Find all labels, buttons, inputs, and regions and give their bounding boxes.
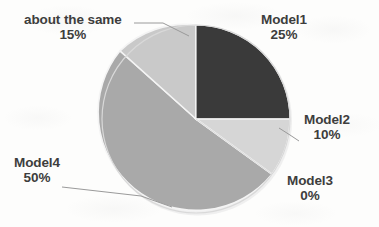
pie-label-model3-value: 0% [287,188,333,203]
pie-label-model4-name: Model4 [14,155,60,170]
pie-label-model1: Model1 25% [261,12,307,42]
pie-label-about-the-same: about the same 15% [24,12,122,42]
pie-label-model2-value: 10% [304,127,350,142]
pie-label-about-the-same-value: 15% [24,27,122,42]
pie-label-about-the-same-name: about the same [24,12,122,27]
pie-label-model3: Model3 0% [287,173,333,203]
pie-label-model2: Model2 10% [304,112,350,142]
pie-label-model2-name: Model2 [304,112,350,127]
pie-chart-figure: about the same 15% Model1 25% Model2 10%… [0,0,379,227]
pie-label-model4: Model4 50% [14,155,60,185]
pie-label-model1-value: 25% [261,27,307,42]
pie-label-model3-name: Model3 [287,173,333,188]
pie-label-model1-name: Model1 [261,12,307,27]
pie-label-model4-value: 50% [14,170,60,185]
